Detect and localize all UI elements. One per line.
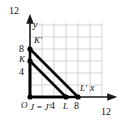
y-axis-tick-4: 4 (19, 67, 24, 77)
x-axis-tick-12: 12 (101, 107, 111, 117)
y-axis-arrow (27, 16, 32, 23)
point-j-j-prime (27, 94, 32, 99)
vertex-label-j-equals-j-prime: J = J' (30, 103, 51, 112)
point-l-prime (75, 94, 80, 99)
point-l (63, 94, 68, 99)
vertex-label-l-prime: L' (80, 84, 87, 93)
x-axis-arrow (108, 94, 115, 99)
vertex-label-l: L (63, 102, 68, 111)
origin-label: O (21, 101, 28, 110)
vertex-label-k: K (19, 55, 25, 64)
y-axis-tick-8: 8 (19, 44, 24, 54)
y-axis-label: y (33, 20, 37, 30)
coordinate-grid-figure: y x 12 12 8 4 4 8 K' K L L' O J = J' (0, 0, 122, 125)
x-axis-tick-8: 8 (74, 101, 79, 111)
y-axis-tick-12: 12 (9, 6, 19, 16)
point-k (27, 58, 32, 63)
vertex-label-k-prime: K' (34, 36, 42, 45)
point-k-prime (27, 46, 32, 51)
x-axis-label: x (90, 83, 94, 93)
